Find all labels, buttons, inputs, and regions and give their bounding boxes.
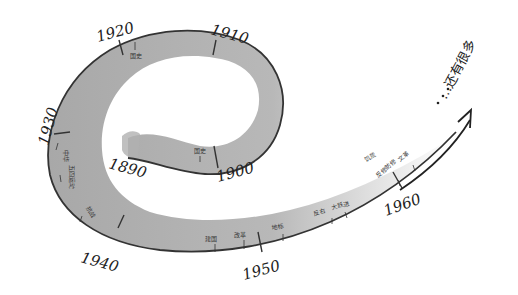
decade-label-1940: 1940 bbox=[79, 248, 121, 275]
decade-label-1950: 1950 bbox=[240, 256, 282, 283]
continuation-arrow bbox=[400, 120, 470, 190]
event-label: 建国 bbox=[205, 235, 217, 243]
event-label: 国史 bbox=[194, 147, 206, 155]
event-label: 饥荒 bbox=[363, 151, 377, 164]
event-label: 国史 bbox=[130, 52, 142, 60]
arrow-head-icon bbox=[458, 110, 471, 128]
spiral-timeline-svg: 1890 1900 1910 1920 1930 1940 1950 1960 … bbox=[0, 0, 518, 295]
event-label: 中华 bbox=[62, 150, 70, 162]
ellipsis-dot bbox=[437, 102, 440, 105]
spiral-start-scribble bbox=[122, 131, 140, 158]
spiral-timeline-diagram: 1890 1900 1910 1920 1930 1940 1950 1960 … bbox=[0, 0, 518, 295]
event-label: 五四运动 bbox=[68, 165, 76, 189]
spiral-band bbox=[48, 31, 456, 252]
event-label: 文革 bbox=[396, 150, 410, 164]
decade-label-1960: 1960 bbox=[381, 190, 423, 220]
event-label: 改革 bbox=[234, 231, 246, 239]
continuation-label: …还有很多 bbox=[435, 37, 479, 101]
